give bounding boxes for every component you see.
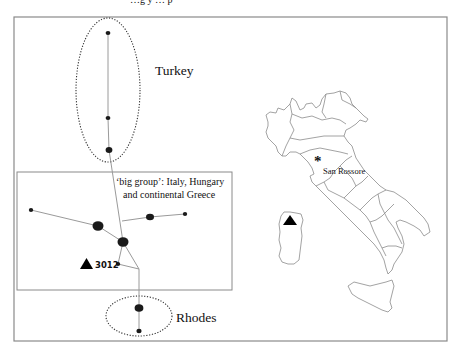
haplotype-network: 3012 Turkey ‘big group’: Italy, Hungary … [17,18,232,336]
sicily-outline [348,280,394,312]
node-big-1 [29,208,33,212]
node-turkey-2 [106,116,111,120]
node-big-4 [146,214,154,221]
label-big-group-line1: ‘big group’: Italy, Hungary [116,176,224,187]
label-turkey: Turkey [155,63,194,78]
triangle-marker-3012-icon [80,258,93,269]
label-3012: 3012 [95,260,119,270]
node-big-5 [183,212,187,216]
outer-frame [14,17,447,341]
node-rhodes-1 [135,304,144,312]
node-rhodes-2 [136,329,141,333]
node-big-2 [93,221,104,231]
label-rhodes: Rhodes [176,310,217,325]
node-turkey-1 [106,31,111,35]
caption-cropped: …g y … p [130,0,173,5]
sardinia-triangle-marker-icon [283,215,297,225]
label-big-group-line2: and continental Greece [123,189,216,200]
node-big-3 [118,237,129,247]
italy-map [266,91,430,312]
san-rossore-asterisk-icon: * [314,153,322,169]
label-san-rossore: San Rossore [323,166,365,176]
figure-canvas: …g y … p [0,0,460,351]
node-turkey-3 [106,147,113,153]
